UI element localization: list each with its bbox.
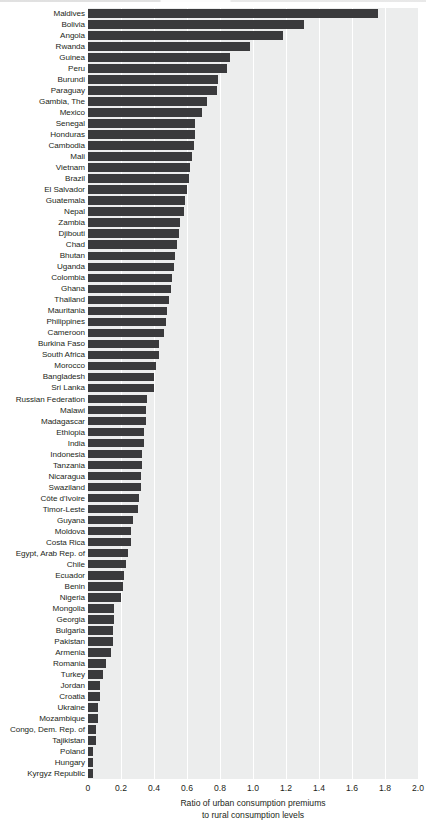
- top-cropped-rule: [0, 0, 426, 2]
- x-tick-label: 0.2: [115, 783, 127, 793]
- bar: [88, 141, 194, 150]
- category-label: Senegal: [56, 118, 85, 130]
- bar: [88, 593, 121, 602]
- category-label: Vietnam: [56, 162, 85, 174]
- bar: [88, 274, 172, 283]
- bar: [88, 472, 141, 481]
- bar-row: [88, 559, 418, 571]
- category-label: Burundi: [57, 74, 85, 86]
- category-label: Djibouti: [58, 228, 85, 240]
- bar-row: [88, 746, 418, 758]
- category-label: Rwanda: [56, 41, 85, 53]
- bar: [88, 725, 96, 734]
- category-label: Kyrgyz Republic: [27, 768, 85, 780]
- bar-row: [88, 636, 418, 648]
- category-label: Croatia: [59, 691, 85, 703]
- bar-row: [88, 283, 418, 295]
- x-axis-title-line1: Ratio of urban consumption premiums: [88, 798, 418, 810]
- category-label: Mongolia: [53, 603, 85, 615]
- bar-row: [88, 195, 418, 207]
- plot-area: [88, 8, 418, 779]
- bar: [88, 97, 207, 106]
- bar-row: [88, 394, 418, 406]
- bar: [88, 582, 123, 591]
- bar-row: [88, 74, 418, 86]
- bar: [88, 340, 159, 349]
- bar-row: [88, 85, 418, 97]
- bar: [88, 604, 114, 613]
- bar: [88, 692, 100, 701]
- bar: [88, 758, 93, 767]
- bar: [88, 229, 179, 238]
- category-label: Nepal: [64, 206, 85, 218]
- bar-row: [88, 438, 418, 450]
- bar-row: [88, 592, 418, 604]
- bar: [88, 351, 159, 360]
- bar-row: [88, 140, 418, 152]
- bar-row: [88, 217, 418, 229]
- category-label: Tanzania: [53, 460, 85, 472]
- bar: [88, 373, 154, 382]
- bar-row: [88, 173, 418, 185]
- bar-series: [88, 8, 418, 779]
- bar: [88, 428, 144, 437]
- bar: [88, 86, 217, 95]
- bar: [88, 395, 147, 404]
- bar: [88, 747, 93, 756]
- category-label: Morocco: [54, 360, 85, 372]
- bar: [88, 119, 195, 128]
- category-label: Uganda: [57, 261, 85, 273]
- bar-row: [88, 713, 418, 725]
- category-label: Mozambique: [39, 713, 85, 725]
- category-label: Guinea: [59, 52, 85, 64]
- category-axis-labels: MaldivesBoliviaAngolaRwandaGuineaPeruBur…: [0, 8, 85, 779]
- bar-row: [88, 504, 418, 516]
- bar: [88, 130, 195, 139]
- category-label: Nigeria: [60, 592, 85, 604]
- bar: [88, 75, 218, 84]
- bar-row: [88, 19, 418, 31]
- category-label: Timor-Leste: [43, 504, 85, 516]
- bar-row: [88, 371, 418, 383]
- bar: [88, 670, 103, 679]
- category-label: Thailand: [54, 294, 85, 306]
- bar-row: [88, 680, 418, 692]
- bar-row: [88, 482, 418, 494]
- category-label: Costa Rica: [46, 537, 85, 549]
- bar: [88, 263, 174, 272]
- category-label: Bulgaria: [56, 625, 85, 637]
- bar-row: [88, 768, 418, 780]
- category-label: Mexico: [60, 107, 85, 119]
- category-label: Paraguay: [51, 85, 85, 97]
- bar: [88, 417, 146, 426]
- category-label: South Africa: [42, 349, 85, 361]
- category-label: Moldova: [55, 526, 85, 538]
- bar: [88, 516, 133, 525]
- category-label: Brazil: [65, 173, 85, 185]
- bar-row: [88, 405, 418, 417]
- x-tick-label: 2.0: [412, 783, 424, 793]
- category-label: Bangladesh: [43, 371, 85, 383]
- category-label: Ghana: [61, 283, 85, 295]
- x-tick-label: 1.4: [313, 783, 325, 793]
- bar-row: [88, 614, 418, 626]
- bar-row: [88, 41, 418, 53]
- bar-row: [88, 107, 418, 119]
- bar-row: [88, 206, 418, 218]
- bar: [88, 615, 114, 624]
- bar: [88, 42, 250, 51]
- gridline: [418, 8, 419, 779]
- category-label: Nicaragua: [49, 471, 85, 483]
- bar-row: [88, 305, 418, 317]
- bar-row: [88, 471, 418, 483]
- category-label: Hungary: [55, 757, 85, 769]
- category-label: Cambodia: [49, 140, 86, 152]
- category-label: Chad: [66, 239, 85, 251]
- bar: [88, 362, 156, 371]
- bar-row: [88, 52, 418, 64]
- bar: [88, 659, 106, 668]
- bar: [88, 152, 192, 161]
- bar: [88, 240, 177, 249]
- bar: [88, 252, 175, 261]
- bar-row: [88, 151, 418, 163]
